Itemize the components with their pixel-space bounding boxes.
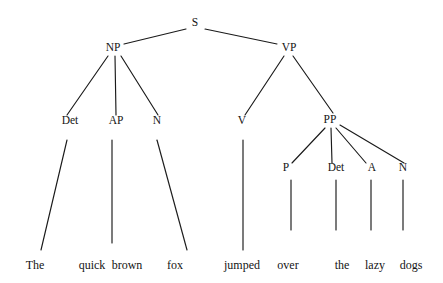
tree-edge-np-to-det1 bbox=[67, 56, 108, 115]
tree-edge-s-to-vp bbox=[205, 29, 277, 44]
tree-edge-pp-to-a bbox=[336, 128, 366, 163]
leaf-word-w_jumped: jumped bbox=[223, 258, 260, 272]
tree-edge-np-to-n1 bbox=[121, 56, 158, 115]
tree-node-det1: Det bbox=[62, 114, 79, 126]
leaf-word-w_brown: brown bbox=[112, 258, 143, 272]
leaf-word-w_lazy: lazy bbox=[365, 258, 385, 272]
tree-node-pp: PP bbox=[324, 113, 337, 125]
leaf-word-w_dogs: dogs bbox=[400, 258, 423, 272]
tree-node-np: NP bbox=[106, 41, 121, 53]
tree-edge-s-to-np bbox=[124, 29, 186, 44]
tree-edge-vp-to-pp bbox=[293, 56, 333, 113]
tree-node-n2: N bbox=[399, 161, 408, 173]
tree-edge-vp-to-v bbox=[245, 56, 284, 115]
leaf-word-w_fox: fox bbox=[167, 258, 183, 272]
leaf-word-w_the1: The bbox=[26, 258, 45, 272]
leaf-word-w_over: over bbox=[277, 258, 298, 272]
tree-edge-group bbox=[41, 29, 404, 250]
tree-node-group: SNPVPDetAPNVPPPDetANThequickbrownfoxjump… bbox=[26, 16, 423, 272]
tree-node-vp: VP bbox=[282, 41, 297, 53]
leaf-word-w_the2: the bbox=[335, 258, 350, 272]
tree-node-a: A bbox=[368, 161, 377, 173]
tree-node-ap: AP bbox=[109, 114, 124, 126]
leaf-word-w_quick: quick bbox=[79, 258, 106, 272]
tree-node-s: S bbox=[192, 16, 198, 28]
tree-node-n1: N bbox=[153, 114, 162, 126]
tree-edge-np-to-ap bbox=[115, 56, 116, 115]
tree-node-v: V bbox=[238, 114, 247, 126]
tree-node-det2: Det bbox=[328, 161, 345, 173]
tree-edge-pp-to-p bbox=[292, 128, 325, 163]
tree-edge-pp-to-det2 bbox=[331, 128, 332, 163]
tree-node-p: P bbox=[283, 161, 289, 173]
tree-edge-det1-to-w_the1 bbox=[41, 140, 67, 250]
syntax-tree-diagram: SNPVPDetAPNVPPPDetANThequickbrownfoxjump… bbox=[0, 0, 443, 283]
tree-edge-n1-to-w_fox bbox=[157, 140, 187, 250]
tree-canvas: SNPVPDetAPNVPPPDetANThequickbrownfoxjump… bbox=[0, 0, 443, 283]
